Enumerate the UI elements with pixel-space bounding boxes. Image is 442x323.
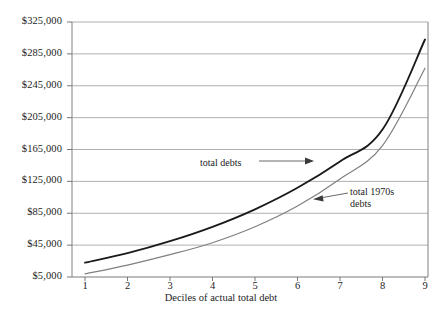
y-axis-tick-label: $245,000: [0, 79, 62, 90]
y-axis-tick-label: $325,000: [0, 15, 62, 26]
y-axis-tick-label: $45,000: [0, 238, 62, 249]
series-line-total-debts: [85, 40, 425, 263]
y-axis-tick-label: $85,000: [0, 206, 62, 217]
x-axis-tick-label: 9: [405, 280, 442, 291]
y-axis-tick-label: $285,000: [0, 47, 62, 58]
x-axis-tick-label: 3: [150, 280, 190, 291]
x-axis-tick-label: 4: [193, 280, 233, 291]
x-axis-tick-label: 5: [235, 280, 275, 291]
x-axis-tick-label: 6: [278, 280, 318, 291]
y-axis-tick-label: $165,000: [0, 143, 62, 154]
x-axis-tick-label: 1: [65, 280, 105, 291]
chart-container: $5,000$45,000$85,000$125,000$165,000$205…: [0, 0, 442, 323]
y-axis-tick-label: $125,000: [0, 174, 62, 185]
x-axis-tick-label: 7: [320, 280, 360, 291]
arrowhead-total-debts: [305, 157, 314, 164]
series-annotation-total-1970s-debts: total 1970s debts: [350, 186, 394, 209]
x-axis-tick-label: 8: [363, 280, 403, 291]
y-axis-tick-label: $5,000: [0, 270, 62, 281]
y-tick-marks-group: [67, 22, 72, 277]
series-line-total-1970s-debts: [85, 68, 425, 274]
leader-line-total-1970s-debts: [320, 193, 348, 198]
x-axis-title: Deciles of actual total debt: [0, 292, 442, 303]
x-axis-tick-label: 2: [108, 280, 148, 291]
data-series-group: [85, 40, 425, 274]
series-annotation-total-debts: total debts: [200, 157, 241, 169]
y-axis-tick-label: $205,000: [0, 111, 62, 122]
